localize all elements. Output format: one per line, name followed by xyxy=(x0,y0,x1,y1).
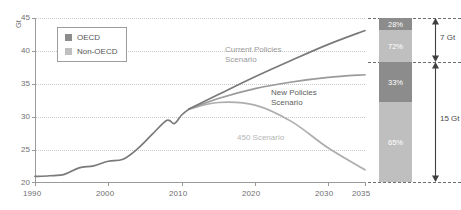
y-tick-label-35: 35 xyxy=(12,79,30,88)
legend-item-oecd: OECD xyxy=(65,33,117,42)
annotation-current-policies-line2: Scenario xyxy=(225,55,281,65)
legend-label-oecd: OECD xyxy=(77,33,100,42)
gap-annotation-lower: 15 Gt xyxy=(422,62,460,182)
annotation-450-scenario: 450 Scenario xyxy=(237,133,284,143)
annotation-new-policies-line1: New Policies xyxy=(271,88,317,98)
legend-item-non-oecd: Non-OECD xyxy=(65,47,117,56)
y-tick-label-40: 40 xyxy=(12,46,30,55)
annotation-new-policies-scenario: New Policies Scenario xyxy=(271,88,317,108)
annotation-450-scenario-line1: 450 Scenario xyxy=(237,133,284,143)
y-tick-label-45: 45 xyxy=(12,13,30,22)
annotation-current-policies-scenario: Current Policies Scenario xyxy=(225,45,281,65)
legend: OECD Non-OECD xyxy=(57,27,127,62)
y-tick-label-30: 30 xyxy=(12,112,30,121)
x-tick-label-2035: 2035 xyxy=(352,189,370,198)
x-tick-label-2020: 2020 xyxy=(242,189,260,198)
stack-segment-lower-non-oecd-label: 65% xyxy=(388,138,403,147)
stack-segment-lower-non-oecd: 65% xyxy=(379,102,412,182)
x-tick-mark-2035 xyxy=(365,182,366,186)
series-line-historical xyxy=(35,109,189,176)
stack-segment-upper-non-oecd-label: 72% xyxy=(388,42,403,51)
x-tick-label-1990: 1990 xyxy=(23,189,41,198)
stacked-bar-lower-gap: 33% 65% xyxy=(379,62,412,182)
x-tick-label-2000: 2000 xyxy=(96,189,114,198)
stack-segment-upper-oecd-label: 28% xyxy=(388,20,403,29)
stack-segment-upper-oecd: 28% xyxy=(379,18,412,30)
gap-breakdown-panel: 28% 72% 33% 65% 7 Gt xyxy=(368,18,461,183)
annotation-new-policies-line2: Scenario xyxy=(271,98,317,108)
legend-swatch-oecd-icon xyxy=(65,34,72,41)
reference-line-450-scenario xyxy=(368,182,461,183)
chart-figure: Gt 45 40 35 30 25 20 1990 2000 2010 2020… xyxy=(0,0,461,210)
x-tick-label-2030: 2030 xyxy=(315,189,333,198)
gap-label-lower: 15 Gt xyxy=(440,114,460,123)
stack-segment-lower-oecd-label: 33% xyxy=(388,78,403,87)
legend-swatch-non-oecd-icon xyxy=(65,48,72,55)
y-tick-label-25: 25 xyxy=(12,145,30,154)
gap-label-upper: 7 Gt xyxy=(440,33,455,42)
annotation-current-policies-line1: Current Policies xyxy=(225,45,281,55)
gap-annotation-upper: 7 Gt xyxy=(422,18,460,62)
stack-segment-upper-non-oecd: 72% xyxy=(379,30,412,62)
stack-segment-lower-oecd: 33% xyxy=(379,62,412,102)
stacked-bar-upper-gap: 28% 72% xyxy=(379,18,412,62)
legend-label-non-oecd: Non-OECD xyxy=(77,47,117,56)
y-tick-label-20: 20 xyxy=(12,178,30,187)
x-tick-label-2010: 2010 xyxy=(169,189,187,198)
